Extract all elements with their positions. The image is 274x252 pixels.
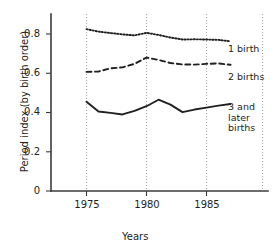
legend-label-3-and-later-births: 3 and later births — [228, 102, 255, 134]
data-series-group — [87, 29, 231, 114]
legend-label-line-3: births — [228, 123, 255, 134]
series-line-3-and-later-births — [87, 100, 231, 115]
series-line-2-births — [87, 58, 231, 72]
legend-label-2-births: 2 births — [228, 72, 264, 83]
series-line-1-birth — [87, 29, 231, 41]
legend-label-line-1: 3 and — [228, 102, 255, 113]
x-tick-label-1975: 1975 — [67, 199, 107, 210]
y-tick-label-0: 0 — [10, 185, 40, 196]
x-tick-label-1985: 1985 — [187, 199, 227, 210]
y-axis-title: Period index (by birth order) — [19, 22, 30, 182]
x-axis-title: Years — [122, 231, 148, 242]
chart-figure: 0.8 0.6 0.4 0.2 0 1975 1980 1985 Period … — [0, 0, 274, 252]
x-tick-label-1980: 1980 — [127, 199, 167, 210]
legend-label-1-birth: 1 birth — [228, 44, 259, 55]
